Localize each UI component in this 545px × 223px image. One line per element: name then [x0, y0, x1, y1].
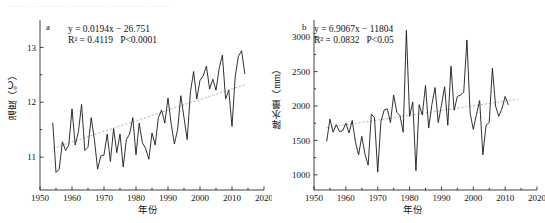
- svg-text:1980: 1980: [127, 193, 146, 203]
- svg-text:1950: 1950: [31, 193, 50, 203]
- svg-text:1960: 1960: [63, 193, 82, 203]
- svg-text:1970: 1970: [369, 193, 388, 203]
- chart-panels: a y = 0.0194x − 26.751 R² = 0.4119 P<0.0…: [0, 0, 545, 223]
- svg-text:2000: 2000: [191, 193, 210, 203]
- svg-text:1000: 1000: [292, 170, 311, 180]
- svg-text:1980: 1980: [401, 193, 420, 203]
- svg-text:1970: 1970: [95, 193, 114, 203]
- svg-text:2500: 2500: [292, 67, 311, 77]
- chart-panel-a: a y = 0.0194x − 26.751 R² = 0.4119 P<0.0…: [0, 8, 272, 218]
- svg-text:1500: 1500: [292, 136, 311, 146]
- svg-text:2010: 2010: [496, 193, 514, 203]
- svg-text:1990: 1990: [432, 193, 451, 203]
- svg-text:2000: 2000: [292, 101, 311, 111]
- svg-text:12: 12: [27, 97, 36, 107]
- svg-text:2020: 2020: [528, 193, 545, 203]
- panel-a-plot: 11121319501960197019801990200020102020: [0, 8, 272, 218]
- svg-text:2010: 2010: [223, 193, 242, 203]
- svg-text:1950: 1950: [305, 193, 324, 203]
- svg-text:13: 13: [27, 43, 37, 53]
- svg-text:1960: 1960: [337, 193, 356, 203]
- panel-b-plot: 1000150020002500300019501960197019801990…: [268, 8, 545, 218]
- svg-text:11: 11: [27, 152, 36, 162]
- chart-panel-b: b y = 6.9067x − 11804 R² = 0.0832 P<0.05…: [268, 8, 545, 218]
- svg-text:3000: 3000: [292, 32, 311, 42]
- svg-text:1990: 1990: [159, 193, 178, 203]
- svg-text:2000: 2000: [464, 193, 483, 203]
